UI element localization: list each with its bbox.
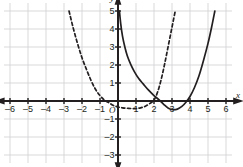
x-tick-label: –3 bbox=[59, 104, 69, 114]
y-axis-arrow-up bbox=[115, 0, 122, 5]
y-tick-label: 2 bbox=[109, 60, 114, 70]
curve-dashed-parabola bbox=[69, 11, 175, 109]
y-axis-arrow-down bbox=[115, 162, 122, 167]
y-tick-label: 1 bbox=[109, 78, 114, 88]
y-tick-label: 5 bbox=[109, 6, 114, 16]
x-axis-arrow-left bbox=[0, 98, 5, 105]
x-axis-label: x bbox=[235, 90, 240, 100]
y-tick-label: 4 bbox=[109, 24, 114, 34]
y-tick-label: –2 bbox=[104, 132, 114, 142]
x-tick-label: –5 bbox=[23, 104, 33, 114]
origin-label: O bbox=[109, 105, 116, 115]
curves bbox=[69, 11, 215, 110]
graph-svg: –6–5–4–3–2–1123456–3–2–112345Oxy bbox=[0, 0, 243, 167]
y-tick-label: –1 bbox=[104, 114, 114, 124]
x-tick-label: –4 bbox=[41, 104, 51, 114]
x-tick-label: –2 bbox=[77, 104, 87, 114]
x-tick-label: 4 bbox=[187, 104, 192, 114]
x-tick-label: 2 bbox=[151, 104, 156, 114]
x-tick-label: 6 bbox=[223, 104, 228, 114]
y-tick-label: –3 bbox=[104, 150, 114, 160]
x-tick-label: 5 bbox=[205, 104, 210, 114]
y-axis-label: y bbox=[109, 0, 114, 3]
y-tick-label: 3 bbox=[109, 42, 114, 52]
curve-solid-parabola bbox=[119, 11, 214, 110]
x-tick-label: –6 bbox=[5, 104, 15, 114]
x-tick-label: –1 bbox=[95, 104, 105, 114]
coordinate-plane-figure: –6–5–4–3–2–1123456–3–2–112345Oxy bbox=[0, 0, 243, 167]
